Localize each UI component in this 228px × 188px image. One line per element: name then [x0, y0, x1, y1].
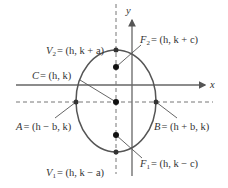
label-v1: V1= (h, k − a) — [46, 167, 105, 180]
point-center — [113, 99, 119, 105]
leader-a — [55, 102, 76, 118]
label-f2: F2= (h, k + c) — [139, 34, 199, 47]
label-f1: F1= (h, k − c) — [139, 158, 199, 171]
label-c: C= (h, k) — [32, 70, 72, 82]
ellipse-diagram: x y V2= (h, k + a) F2= (h, k + c) C= (h,… — [0, 0, 228, 188]
point-f1 — [113, 132, 119, 138]
point-f2 — [113, 64, 119, 70]
point-v1 — [114, 150, 119, 155]
point-v2 — [114, 48, 119, 53]
leader-c — [80, 80, 116, 102]
point-a — [74, 100, 79, 105]
point-b — [154, 100, 159, 105]
label-b: B= (h + b, k) — [154, 121, 210, 133]
label-a: A= (h − b, k) — [15, 121, 72, 133]
leader-b — [156, 102, 177, 118]
y-axis-label: y — [125, 5, 131, 16]
leader-f1 — [116, 135, 142, 158]
x-axis-label: x — [209, 79, 215, 90]
leader-f2 — [116, 45, 141, 67]
